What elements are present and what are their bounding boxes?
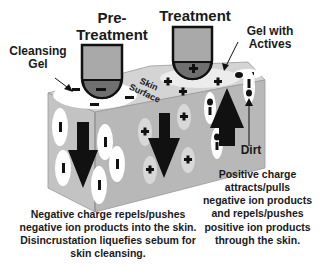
left-caption-line: Negative charge repels/pushes (8, 208, 208, 221)
left-caption-line: Disincrustation liquefies sebum for (8, 234, 208, 247)
right-caption-line: and repels/pushes (195, 207, 320, 220)
dirt-label: Dirt (236, 144, 266, 157)
right-caption-line: negative ion products (195, 194, 320, 207)
right-caption-line: Positive charge (195, 168, 320, 181)
left-caption-line: skin cleansing. (8, 247, 208, 260)
left-caption-line: negative ion products into the skin. (8, 221, 208, 234)
pre-treatment-electrode (82, 45, 122, 98)
treatment-title: Treatment (150, 8, 240, 25)
right-caption-line: attracts/pulls (195, 181, 320, 194)
right-caption-line: through the skin. (195, 234, 320, 247)
treatment-electrode (173, 27, 212, 79)
cleansing-gel-label: Cleansing Gel (3, 45, 73, 71)
left-caption: Negative charge repels/pushes negative i… (8, 208, 208, 261)
right-caption: Positive charge attracts/pulls negative … (195, 168, 320, 247)
gel-actives-line2: Actives (240, 38, 300, 51)
pre-treatment-title-line1: Pre- (82, 10, 142, 27)
gel-actives-label: Gel with Actives (240, 25, 300, 51)
pre-treatment-title-line2: Treatment (62, 27, 162, 44)
pre-treatment-title: Pre- Treatment (82, 10, 142, 43)
right-caption-line: positive ion products (195, 221, 320, 234)
cleansing-gel-line2: Gel (3, 58, 73, 71)
